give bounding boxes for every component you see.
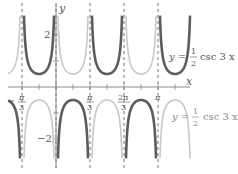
curve-branch [160,100,190,158]
curve-branch [126,100,156,158]
curve-branch [92,100,122,158]
svg-text:3: 3 [121,103,126,112]
x-tick-label-pi-over-3: π 3 [86,93,94,112]
curve-branch [58,16,88,74]
y-tick-label-neg2: −2 [37,133,52,144]
svg-text:csc 3 x: csc 3 x [200,51,235,62]
svg-text:π: π [86,93,93,102]
svg-text:1: 1 [191,47,196,56]
x-tick-label-2pi-over-3: 2π 3 [118,93,130,112]
curve-branch [160,16,190,74]
svg-text:3: 3 [19,103,24,112]
curve-branch [126,16,156,74]
svg-text:π: π [18,93,25,102]
curve-branch [8,16,20,74]
x-tick-label-pi: π [154,93,161,102]
svg-text:2: 2 [191,59,196,68]
x-axis-label: x [186,75,193,88]
svg-text:2: 2 [193,119,198,128]
svg-text:y =: y = [171,111,189,122]
y-tick-label-2: 2 [44,29,50,40]
curve-branch [24,100,54,158]
curve-branch [58,100,88,158]
legend-label-light: y = 1 2 csc 3 x [171,107,238,128]
svg-text:1: 1 [193,107,198,116]
curve-branch [24,16,54,74]
svg-text:csc 3 x: csc 3 x [203,111,238,122]
svg-text:2π: 2π [118,93,128,102]
y-axis-label: y [58,2,66,15]
svg-text:y =: y = [168,51,186,62]
legend-label-dark: y = 1 2 csc 3 x [168,47,235,68]
curve-branch [92,16,122,74]
svg-text:3: 3 [87,103,92,112]
chart-canvas: x y 2 −2 π 3 π 3 2π 3 π y = 1 2 csc 3 x … [0,0,238,174]
